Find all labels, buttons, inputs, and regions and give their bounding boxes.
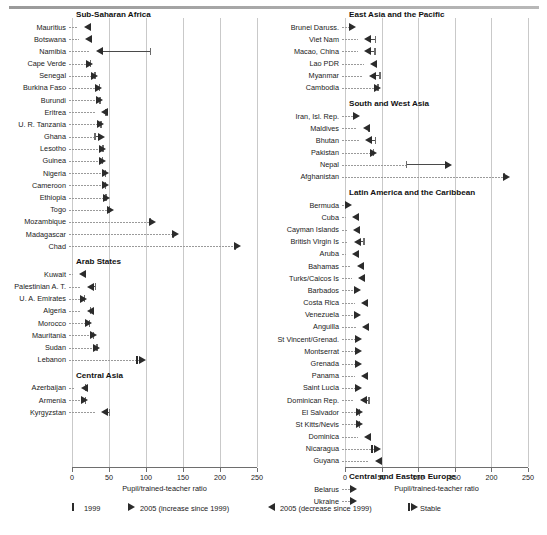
row-label: Nepal <box>0 160 339 169</box>
row-leader <box>69 198 105 199</box>
row-leader <box>342 461 369 462</box>
marker-2005-decrease <box>361 299 368 307</box>
row-leader <box>342 217 346 218</box>
gridline-right-250 <box>528 18 529 467</box>
marker-2005-increase <box>353 112 360 120</box>
row-label: Anguilla <box>0 322 339 331</box>
marker-2005-increase <box>355 347 362 355</box>
row-label: Barbados <box>0 286 339 295</box>
row-label: Bermuda <box>0 201 339 210</box>
marker-2005-increase <box>345 201 352 209</box>
marker-2005-increase <box>355 384 362 392</box>
row-label: St Kitts/Nevis <box>0 420 339 429</box>
marker-1999 <box>368 397 369 404</box>
marker-2005-decrease <box>370 60 377 68</box>
row-leader <box>342 254 346 255</box>
marker-2005-decrease <box>352 213 359 221</box>
row-label: Bhutan <box>0 136 339 145</box>
group-title: Sub-Saharan Africa <box>76 10 151 19</box>
row-leader <box>342 230 347 231</box>
x-tick-right-250 <box>528 468 529 472</box>
row-label: Nicaragua <box>0 444 339 453</box>
row-label: Guyana <box>0 456 339 465</box>
row-leader <box>342 278 352 279</box>
legend-label-stable: Stable <box>420 504 441 513</box>
row-label: El Salvador <box>0 408 339 417</box>
gridline-right-200 <box>491 18 492 467</box>
row-leader <box>69 222 150 223</box>
x-tick-left-200 <box>220 468 221 472</box>
x-tick-left-100 <box>146 468 147 472</box>
row-leader <box>69 100 99 101</box>
group-title: Central and Eastern Europe <box>349 472 456 481</box>
x-tick-label-left-250: 250 <box>242 473 272 482</box>
x-tick-left-0 <box>72 468 73 472</box>
marker-2005-increase <box>374 84 381 92</box>
marker-2005-increase <box>349 23 356 31</box>
row-leader <box>342 128 357 129</box>
row-leader <box>69 234 173 235</box>
row-label: Dominica <box>0 432 339 441</box>
row-leader <box>342 242 348 243</box>
marker-2005-increase <box>350 497 357 505</box>
row-label: Cambodia <box>0 83 339 92</box>
row-label: Pakistan <box>0 148 339 157</box>
marker-2005-decrease <box>364 47 371 55</box>
x-tick-label-left-200: 200 <box>205 473 235 482</box>
marker-2005-decrease <box>352 250 359 258</box>
row-leader <box>342 303 355 304</box>
row-leader <box>69 246 235 247</box>
row-label: Brunei Daruss. <box>0 23 339 32</box>
row-label: Aruba <box>0 249 339 258</box>
x-tick-left-150 <box>183 468 184 472</box>
marker-2005-increase <box>350 485 357 493</box>
row-leader <box>342 51 358 52</box>
top-rule <box>9 6 539 9</box>
marker-2005-decrease <box>362 323 369 331</box>
marker-2005-decrease <box>360 396 367 404</box>
x-tick-label-left-0: 0 <box>57 473 87 482</box>
row-leader <box>342 64 364 65</box>
x-axis-title-right: Pupil/trained-teacher ratio <box>337 484 537 493</box>
group-title: East Asia and the Pacific <box>349 10 445 19</box>
marker-2005-increase <box>96 96 103 104</box>
marker-2005-decrease <box>354 238 361 246</box>
marker-2005-increase <box>503 173 510 181</box>
row-label: Saint Lucia <box>0 383 339 392</box>
marker-2005-decrease <box>365 136 372 144</box>
stable-marker <box>371 445 373 453</box>
row-label: St Vincent/Grenad. <box>0 335 339 344</box>
gridline-right-50 <box>382 18 383 467</box>
row-label: Ukraine <box>0 497 339 506</box>
marker-2005-decrease <box>364 433 371 441</box>
row-leader <box>342 437 358 438</box>
marker-1999 <box>374 48 375 55</box>
marker-1999 <box>363 238 364 245</box>
marker-2005-increase <box>445 161 452 169</box>
gridline-right-150 <box>455 18 456 467</box>
x-tick-left-50 <box>109 468 110 472</box>
legend-glyph-stable-icon <box>408 503 410 511</box>
row-leader <box>342 376 355 377</box>
row-leader <box>342 327 356 328</box>
row-label: Venezuela <box>0 310 339 319</box>
row-leader <box>342 140 359 141</box>
x-tick-label-left-50: 50 <box>94 473 124 482</box>
marker-2005-increase <box>354 311 361 319</box>
row-leader <box>69 210 109 211</box>
row-label: Cayman Islands <box>0 225 339 234</box>
group-title: Latin America and the Caribbean <box>349 188 475 197</box>
row-label: Macao, China <box>0 47 339 56</box>
marker-2005-decrease <box>361 372 368 380</box>
row-label: Iran, Isl. Rep. <box>0 112 339 121</box>
gridline-right-100 <box>418 18 419 467</box>
x-tick-label-right-200: 200 <box>476 473 506 482</box>
marker-2005-decrease <box>375 457 382 465</box>
marker-2005-increase <box>354 286 361 294</box>
marker-1999 <box>406 161 407 168</box>
legend-glyph-stable-arrow-icon <box>411 503 418 511</box>
row-label: Burundi <box>0 96 66 105</box>
marker-2005-increase <box>356 420 363 428</box>
row-leader <box>342 400 354 401</box>
marker-1999 <box>379 72 380 79</box>
